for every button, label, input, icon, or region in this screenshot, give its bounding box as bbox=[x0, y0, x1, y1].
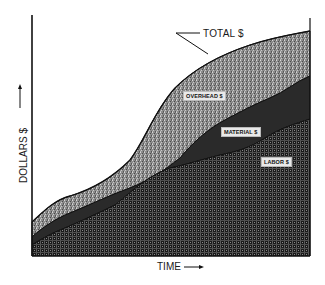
overhead-label: OVERHEAD $ bbox=[183, 91, 226, 101]
material-label: MATERIAL $ bbox=[221, 127, 261, 137]
y-axis-label: DOLLARS $ bbox=[18, 121, 29, 191]
stacked-area-chart: TOTAL $ DOLLARS $ TIME OVERHEAD $ MATERI… bbox=[0, 0, 325, 285]
chart-plot bbox=[0, 0, 325, 285]
up-arrow-icon bbox=[18, 84, 22, 108]
right-arrow-icon bbox=[184, 265, 204, 269]
labor-label: LABOR $ bbox=[261, 157, 292, 167]
x-axis-label: TIME bbox=[157, 261, 181, 272]
total-label: TOTAL $ bbox=[203, 28, 244, 39]
